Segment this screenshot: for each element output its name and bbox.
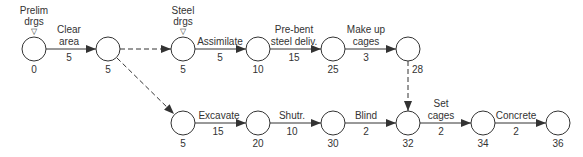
milestone-marker-icon: ▽ bbox=[180, 27, 187, 36]
activity-label: area bbox=[59, 36, 79, 47]
event-node-8 bbox=[321, 111, 345, 135]
activity-label: steel deliv. bbox=[271, 36, 318, 47]
event-node-2 bbox=[171, 37, 195, 61]
activity-label: Make up bbox=[347, 24, 386, 35]
node-time-2: 5 bbox=[180, 64, 186, 75]
node-time-7: 20 bbox=[252, 138, 264, 149]
node-time-9: 32 bbox=[402, 138, 414, 149]
event-node-6 bbox=[171, 111, 195, 135]
node-time-3: 10 bbox=[252, 64, 264, 75]
activity-label: Clear bbox=[57, 24, 82, 35]
event-node-5 bbox=[396, 37, 420, 61]
activity-duration: 5 bbox=[217, 52, 223, 63]
activity-duration: 5 bbox=[66, 52, 72, 63]
node-time-11: 36 bbox=[552, 138, 564, 149]
activity-duration: 2 bbox=[513, 126, 519, 137]
node-time-1: 5 bbox=[105, 64, 111, 75]
activity-label: Pre-bent bbox=[275, 24, 314, 35]
event-node-4 bbox=[321, 37, 345, 61]
event-node-1 bbox=[96, 37, 120, 61]
milestone-marker-icon: ▽ bbox=[31, 27, 38, 36]
activity-duration: 15 bbox=[212, 126, 224, 137]
activity-duration: 2 bbox=[363, 126, 369, 137]
activity-duration: 15 bbox=[288, 52, 300, 63]
activity-label: Excavate bbox=[198, 110, 240, 121]
event-node-7 bbox=[246, 111, 270, 135]
node-time-8: 30 bbox=[327, 138, 339, 149]
dummy-arrow-diagonal bbox=[117, 58, 174, 114]
event-node-9 bbox=[396, 111, 420, 135]
node-time-4: 25 bbox=[327, 64, 339, 75]
event-node-10 bbox=[471, 111, 495, 135]
activity-duration: 3 bbox=[363, 52, 369, 63]
milestone-steel-line1: Steel bbox=[172, 5, 195, 16]
node-time-10: 34 bbox=[477, 138, 489, 149]
activity-duration: 2 bbox=[438, 126, 444, 137]
activity-label: Blind bbox=[355, 110, 377, 121]
activity-label: cages bbox=[428, 110, 455, 121]
event-node-0 bbox=[22, 37, 46, 61]
activity-label: Set bbox=[433, 98, 448, 109]
activity-label: cages bbox=[353, 36, 380, 47]
activity-label: Concrete bbox=[496, 110, 537, 121]
activity-label: Shutr. bbox=[279, 110, 305, 121]
node-time-6: 5 bbox=[180, 138, 186, 149]
milestone-prelim-line1: Prelim bbox=[20, 5, 48, 16]
node-time-5: 28 bbox=[412, 64, 424, 75]
activity-duration: 10 bbox=[286, 126, 298, 137]
node-time-0: 0 bbox=[31, 64, 37, 75]
event-node-11 bbox=[546, 111, 570, 135]
event-node-3 bbox=[246, 37, 270, 61]
activity-label: Assimilate bbox=[197, 36, 243, 47]
network-diagram: 0 5 5 10 25 28 5 20 30 32 34 36 Prelim d… bbox=[0, 0, 583, 157]
milestone-steel-line2: drgs bbox=[173, 16, 192, 27]
milestone-prelim-line2: drgs bbox=[24, 16, 43, 27]
